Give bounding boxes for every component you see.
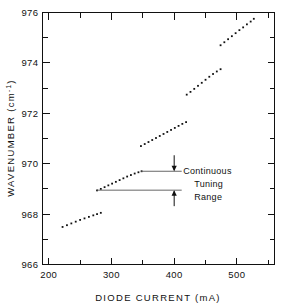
annotation-group: ContinuousTuningRange [97,155,232,206]
data-point [190,91,192,93]
x-tick-label: 300 [103,269,120,280]
data-point [227,38,229,40]
data-point [250,21,252,23]
data-point [181,123,183,125]
data-point [238,29,240,31]
arrow-head-down-icon [172,166,177,172]
data-point [70,223,72,225]
data-point [193,88,195,90]
data-point [88,216,90,218]
y-axis-ticks-group [43,13,50,265]
data-point [212,73,214,75]
data-point [96,213,98,215]
y-tick-label: 968 [21,209,38,220]
arrow-head-up-icon [172,190,177,196]
data-point [220,68,222,70]
annotation-label-line: Tuning [194,179,223,189]
data-point [138,171,140,173]
data-point [205,79,207,81]
y-axis-title-main: WAVENUMBER (cm [5,92,16,197]
data-point [62,226,64,228]
y-axis-title-superscript: -1 [5,84,12,92]
y-tick-label: 970 [21,158,38,169]
y-tick-label: 966 [21,259,38,270]
data-series [186,68,222,95]
data-point [115,181,117,183]
x-tick-label: 400 [166,269,183,280]
y-axis-right-ticks-group [268,13,275,265]
data-point [79,219,81,221]
data-point [197,85,199,87]
data-point [134,173,136,175]
data-point [66,224,68,226]
data-point [220,44,222,46]
data-point [148,141,150,143]
data-point [84,217,86,219]
y-axis-title-suffix: ) [5,79,16,83]
data-point [185,121,187,123]
wavenumber-vs-diode-current-figure: 966968970972974976 200300400500 Continuo… [0,0,286,308]
data-point [119,179,121,181]
data-point [75,221,77,223]
data-point [92,214,94,216]
data-point [104,186,106,188]
data-point [159,135,161,137]
data-point [178,125,180,127]
x-axis-tick-labels-group: 200300400500 [40,269,245,280]
data-point [107,184,109,186]
y-tick-label: 976 [21,7,38,18]
y-tick-label: 972 [21,108,38,119]
data-point [208,76,210,78]
data-series [96,170,142,191]
data-series [140,121,187,147]
annotation-label-line: Range [194,192,222,202]
data-point [216,71,218,73]
x-axis-title: DIODE CURRENT (mA) [95,292,221,303]
data-point [235,32,237,34]
data-point [130,174,132,176]
data-point [140,145,142,147]
data-point [122,177,124,179]
data-series [220,18,255,46]
data-point [111,183,113,185]
data-point [163,133,165,135]
x-tick-label: 200 [40,269,57,280]
data-point [231,35,233,37]
data-point [186,94,188,96]
data-point [144,143,146,145]
data-point [201,82,203,84]
data-point [100,188,102,190]
x-tick-label: 500 [228,269,245,280]
data-point [100,212,102,214]
annotation-label-line: Continuous [183,166,232,176]
data-point [246,23,248,25]
data-point [126,176,128,178]
data-point [242,26,244,28]
x-axis-top-ticks-group [49,13,268,20]
data-point [155,137,157,139]
svg-text:WAVENUMBER (cm-1): WAVENUMBER (cm-1) [5,79,17,197]
data-point [223,41,225,43]
chart-canvas: 966968970972974976 200300400500 Continuo… [0,0,286,308]
y-axis-title: WAVENUMBER (cm-1) [5,79,17,197]
axis-frame [42,12,275,265]
x-axis-ticks-group [49,258,268,265]
data-point [166,131,168,133]
data-point [170,129,172,131]
data-point [151,139,153,141]
y-tick-label: 974 [21,57,38,68]
data-series [62,212,102,228]
data-point [174,127,176,129]
y-axis-tick-labels-group: 966968970972974976 [21,7,38,270]
data-points-group [62,18,255,228]
data-point [253,18,255,20]
